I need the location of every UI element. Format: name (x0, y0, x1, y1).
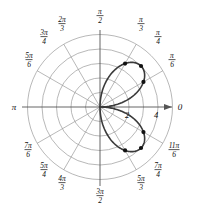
angle-label-numerator: 5π (137, 174, 145, 183)
curve-marker-point (139, 64, 143, 68)
polar-spoke (37, 107, 100, 143)
angle-label-numerator: π (98, 7, 102, 16)
angle-label-denominator: 4 (42, 170, 46, 179)
polar-plot-svg: 0π24π2π3π4π62π33π45π63π25π37π411π64π35π4… (0, 0, 200, 216)
angle-label-denominator: 2 (98, 196, 102, 205)
angle-label-numerator: 7π (154, 161, 162, 170)
angle-label-numerator: 5π (25, 51, 33, 60)
angle-label-five-pi-over-6: 5π6 (25, 51, 33, 69)
angle-label-three-pi-over-4: 3π4 (39, 28, 48, 46)
angle-label-eleven-pi-over-6: 11π6 (169, 141, 180, 159)
angle-label-denominator: 6 (27, 60, 31, 69)
polar-plot-figure: 0π24π2π3π4π62π33π45π63π25π37π411π64π35π4… (0, 0, 200, 216)
angle-label-numerator: 2π (58, 15, 66, 24)
angle-label-denominator: 3 (59, 24, 64, 33)
angle-label-numerator: 3π (95, 187, 104, 196)
angle-label-numerator: π (156, 28, 160, 37)
angle-label-five-pi-over-4: 5π4 (40, 161, 48, 179)
curve-marker-point (123, 148, 127, 152)
curve-marker-point (139, 146, 143, 150)
axis-label-pi: π (12, 102, 17, 112)
angle-label-numerator: 4π (58, 174, 66, 183)
angle-label-denominator: 2 (98, 16, 102, 25)
petal-lower-petal (100, 107, 145, 152)
petal-upper-petal (100, 62, 145, 107)
angle-label-pi-over-3: π3 (138, 15, 145, 33)
angle-label-denominator: 4 (156, 170, 160, 179)
polar-spoke (64, 44, 100, 107)
curve-marker-point (141, 80, 145, 84)
angle-label-denominator: 3 (138, 24, 143, 33)
angle-label-two-pi-over-3: 2π3 (58, 15, 66, 33)
angle-label-denominator: 3 (59, 183, 64, 192)
angle-label-numerator: π (170, 51, 174, 60)
angle-label-pi-over-6: π6 (169, 51, 176, 69)
angle-label-denominator: 6 (172, 150, 176, 159)
curve-marker-point (123, 61, 127, 65)
angle-label-denominator: 6 (170, 60, 174, 69)
angle-label-three-pi-over-2: 3π2 (95, 187, 104, 205)
angle-label-numerator: 3π (39, 28, 48, 37)
angle-label-numerator: 7π (24, 141, 32, 150)
angle-label-denominator: 4 (42, 37, 46, 46)
axis-arrow-right (164, 104, 172, 110)
angle-label-numerator: 5π (40, 161, 48, 170)
angle-label-four-pi-over-3: 4π3 (58, 174, 66, 192)
curve-marker-point (141, 130, 145, 134)
angle-label-denominator: 6 (26, 150, 30, 159)
angle-label-pi-over-2: π2 (97, 7, 104, 25)
angle-label-numerator: 11π (169, 141, 180, 150)
angle-label-pi-over-4: π4 (155, 28, 162, 46)
angle-label-denominator: 4 (156, 37, 160, 46)
polar-spoke (64, 107, 100, 170)
angle-label-seven-pi-over-4: 7π4 (154, 161, 162, 179)
angle-label-numerator: π (139, 15, 143, 24)
angle-label-denominator: 3 (138, 183, 143, 192)
axis-label-zero: 0 (178, 102, 183, 112)
angle-label-five-pi-over-3: 5π3 (137, 174, 145, 192)
angle-label-seven-pi-over-6: 7π6 (24, 141, 32, 159)
polar-spoke (37, 71, 100, 107)
